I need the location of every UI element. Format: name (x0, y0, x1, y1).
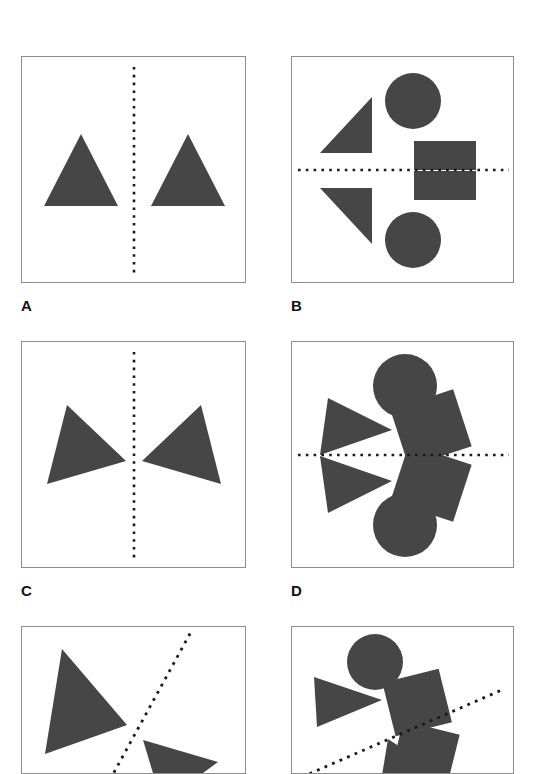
panel-label-a: A (21, 298, 32, 313)
panel-label-c: C (21, 583, 32, 598)
triangle-lower-right (143, 740, 218, 773)
panel-f-canvas (292, 627, 513, 773)
triangle-right (151, 134, 225, 206)
figure-sheet: A B C (0, 0, 543, 774)
triangle-left (47, 405, 126, 484)
circle-upper (373, 354, 437, 418)
triangle-left (44, 134, 118, 206)
panel-e-canvas (22, 627, 245, 773)
square-upper (414, 141, 476, 170)
panel-b (291, 56, 514, 283)
triangle-lower (320, 188, 372, 244)
panel-label-b: B (291, 298, 302, 313)
panel-label-d: D (291, 583, 302, 598)
panel-d (291, 341, 514, 568)
circle-lower (373, 493, 437, 557)
panel-f (291, 626, 514, 774)
panel-b-canvas (292, 57, 513, 282)
triangle-upper-left (45, 649, 127, 754)
panel-d-canvas (292, 342, 513, 567)
panel-e (21, 626, 246, 774)
triangle-upper (320, 97, 372, 153)
panel-c-canvas (22, 342, 245, 567)
panel-a-canvas (22, 57, 245, 282)
circle-upper (385, 73, 441, 129)
circle-lower (385, 212, 441, 268)
triangle-right (142, 405, 221, 484)
panel-a (21, 56, 246, 283)
square-lower (414, 171, 476, 200)
panel-c (21, 341, 246, 568)
circle-upper (347, 634, 403, 690)
